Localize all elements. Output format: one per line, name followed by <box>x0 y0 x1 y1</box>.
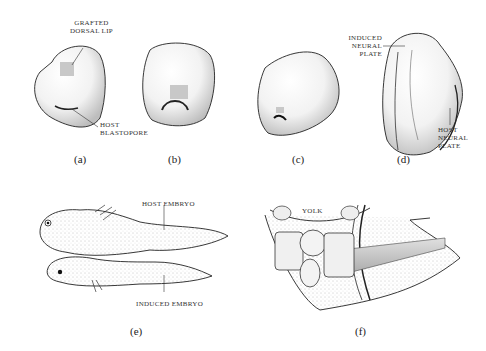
label-host-neural-plate: HOST NEURAL PLATE <box>438 126 468 150</box>
panel-label-c: (c) <box>292 153 304 165</box>
panel-c-embryo <box>258 52 339 135</box>
label-induced-embryo: INDUCED EMBRYO <box>136 300 203 308</box>
panel-a-embryo <box>35 46 106 127</box>
grafted-dorsal-lip-patch <box>60 62 74 76</box>
label-yolk: YOLK <box>302 207 323 215</box>
label-line: BLASTOPORE <box>100 129 148 137</box>
induced-embryo-shape <box>47 257 212 286</box>
panel-label-e: (e) <box>130 325 142 337</box>
label-line: GRAFTED <box>70 19 113 27</box>
panel-f-cross-section <box>265 205 460 310</box>
label-host-embryo: HOST EMBRYO <box>142 200 195 208</box>
panel-label-d: (d) <box>397 153 410 165</box>
label-line: NEURAL <box>340 42 382 50</box>
label-line: PLATE <box>438 142 468 150</box>
panel-b-embryo <box>143 43 215 126</box>
panel-e-embryos <box>40 205 228 292</box>
label-line: PLATE <box>340 50 382 58</box>
label-host-blastopore: HOST BLASTOPORE <box>100 121 148 137</box>
label-grafted-dorsal-lip: GRAFTED DORSAL LIP <box>70 19 113 35</box>
label-line: INDUCED <box>340 34 382 42</box>
label-induced-neural-plate: INDUCED NEURAL PLATE <box>340 34 382 58</box>
panel-label-b: (b) <box>168 153 181 165</box>
host-embryo-shape <box>40 210 228 256</box>
label-line: HOST <box>438 126 468 134</box>
label-line: DORSAL LIP <box>70 27 113 35</box>
panel-label-f: (f) <box>355 325 366 337</box>
embryo-graft-diagram <box>0 0 486 351</box>
label-line: NEURAL <box>438 134 468 142</box>
panel-label-a: (a) <box>74 153 86 165</box>
label-line: HOST <box>100 121 148 129</box>
